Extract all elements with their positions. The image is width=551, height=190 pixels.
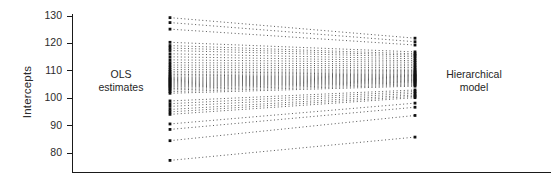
ols-estimate-point <box>169 58 172 61</box>
ols-estimate-point <box>169 139 172 142</box>
y-tick-label: 120 <box>32 36 62 48</box>
connector-line <box>170 18 415 39</box>
connector-line <box>170 63 415 65</box>
ols-estimate-point <box>169 21 172 24</box>
connector-line <box>170 29 415 45</box>
annotation-ols-line2: estimates <box>86 81 156 94</box>
ols-estimate-point <box>169 61 172 64</box>
hierarchical-estimate-point <box>414 96 417 99</box>
y-tick-label: 130 <box>32 9 62 21</box>
hierarchical-estimate-point <box>414 40 417 43</box>
connector-line <box>170 72 415 73</box>
y-axis-label: Intercepts <box>21 37 33 147</box>
plot-canvas <box>0 0 551 190</box>
hierarchical-estimate-point <box>414 37 417 40</box>
ols-estimate-point <box>169 111 172 114</box>
hierarchical-estimate-point <box>414 85 417 88</box>
ols-estimate-point <box>169 49 172 52</box>
ols-estimate-point <box>169 105 172 108</box>
shrinkage-plot-figure: 1301201101009080 Intercepts OLS estimate… <box>0 0 551 190</box>
ols-estimate-point <box>169 92 172 95</box>
ols-estimate-point <box>169 100 172 103</box>
connector-line <box>170 65 415 66</box>
ols-estimate-point <box>169 113 172 116</box>
axis-tick-marks <box>67 16 72 153</box>
hierarchical-estimate-point <box>414 44 417 47</box>
hierarchical-estimate-point <box>414 102 417 105</box>
annotation-hierarchical-model: Hierarchical model <box>428 68 520 94</box>
ols-estimate-point <box>169 28 172 31</box>
connector-line <box>170 115 415 140</box>
y-tick-label: 110 <box>32 64 62 76</box>
connector-line <box>170 107 415 129</box>
connector-lines-group <box>170 18 415 161</box>
connector-line <box>170 60 415 62</box>
ols-estimate-point <box>169 52 172 55</box>
annotation-ols-estimates: OLS estimates <box>86 68 156 94</box>
connector-line <box>170 71 415 72</box>
right-endpoint-markers <box>414 37 417 139</box>
hierarchical-estimate-point <box>414 136 417 139</box>
annotation-ols-line1: OLS <box>86 68 156 81</box>
annotation-hier-line1: Hierarchical <box>428 68 520 81</box>
connector-line <box>170 90 415 101</box>
hierarchical-estimate-point <box>414 106 417 109</box>
left-endpoint-markers <box>169 16 172 162</box>
ols-estimate-point <box>169 47 172 50</box>
y-tick-label: 90 <box>32 119 62 131</box>
y-tick-label: 80 <box>32 146 62 158</box>
ols-estimate-point <box>169 123 172 126</box>
connector-line <box>170 23 415 42</box>
ols-estimate-point <box>169 16 172 19</box>
annotation-hier-line2: model <box>428 81 520 94</box>
ols-estimate-point <box>169 159 172 162</box>
connector-line <box>170 54 415 59</box>
ols-estimate-point <box>169 44 172 47</box>
y-tick-label: 100 <box>32 91 62 103</box>
ols-estimate-point <box>169 41 172 44</box>
connector-line <box>170 137 415 160</box>
ols-estimate-point <box>169 108 172 111</box>
ols-estimate-point <box>169 102 172 105</box>
ols-estimate-point <box>169 55 172 58</box>
ols-estimate-point <box>169 128 172 131</box>
hierarchical-estimate-point <box>414 114 417 117</box>
